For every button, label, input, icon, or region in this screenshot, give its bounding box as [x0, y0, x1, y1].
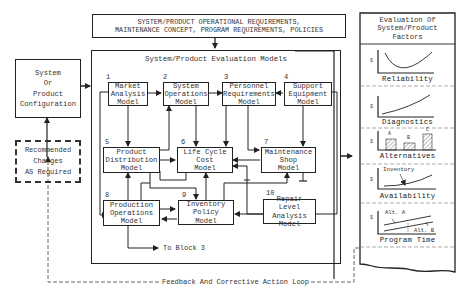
model-3-number: 3 [224, 73, 228, 81]
model-8-number: 8 [105, 191, 109, 199]
model-6-number: 6 [181, 138, 185, 146]
market-analysis-model-label: Market Analysis Model [111, 82, 146, 107]
system-configuration-box[interactable]: System Or Product Configuration [15, 59, 81, 118]
program-time-dollar-axis: $ [370, 215, 373, 221]
repair-level-analysis-model-label: Repair Level Analysis Model [264, 195, 315, 228]
requirements-line-1: SYSTEM/PRODUCT OPERATIONAL REQUIREMENTS, [137, 18, 300, 26]
model-2-number: 2 [163, 73, 167, 81]
model-5-number: 5 [105, 138, 109, 146]
product-distribution-model[interactable]: Product Distribution Model [103, 147, 160, 173]
alt-a-annotation: Alt. A [385, 209, 405, 216]
model-7-number: 7 [264, 138, 268, 146]
model-9-number: 9 [182, 191, 186, 199]
reliability-label: Reliability [360, 75, 455, 83]
availability-dollar-axis: $ [370, 177, 373, 183]
product-distribution-model-label: Product Distribution Model [106, 148, 158, 173]
model-1-number: 1 [106, 73, 110, 81]
recommended-changes-label: Recommended Changes AS Required [25, 145, 71, 178]
requirements-box: SYSTEM/PRODUCT OPERATIONAL REQUIREMENTS,… [92, 14, 346, 38]
alternatives-dollar-axis: $ [370, 139, 373, 145]
requirements-line-2: MAINTENANCE CONCEPT, PROGRAM REQUIREMENT… [115, 26, 323, 34]
evaluation-factors-title: Evaluation Of System/Product Factors [360, 16, 455, 41]
personnel-requirements-model-label: Personnel Requirements Model [223, 82, 275, 107]
bar-a-label: A [388, 131, 391, 137]
production-operations-model[interactable]: Production Operations Model [103, 200, 160, 226]
inventory-policy-model-label: Inventory Policy Model [187, 200, 226, 225]
system-operations-model-label: System Operations Model [164, 82, 207, 107]
to-block-3-label: To Block 3 [163, 244, 205, 252]
market-analysis-model[interactable]: Market Analysis Model [108, 82, 148, 106]
support-equipment-model-label: Support Equipment Model [289, 82, 328, 107]
support-equipment-model[interactable]: Support Equipment Model [284, 82, 332, 106]
alternatives-label: Alternatives [360, 152, 455, 160]
inventory-annotation: Inventory [383, 166, 414, 173]
system-configuration-label: System Or Product Configuration [20, 68, 76, 110]
bar-c-label: C [426, 127, 429, 133]
reliability-dollar-axis: $ [370, 58, 373, 64]
life-cycle-cost-model[interactable]: Life Cycle Cost Model [177, 147, 233, 173]
recommended-changes-box[interactable]: Recommended Changes AS Required [15, 140, 81, 183]
production-operations-model-label: Production Operations Model [110, 201, 153, 226]
life-cycle-cost-model-label: Life Cycle Cost Model [183, 148, 226, 173]
program-time-label: Program Time [360, 236, 455, 244]
repair-level-analysis-model[interactable]: Repair Level Analysis Model [263, 199, 316, 224]
model-4-number: 4 [284, 73, 288, 81]
maintenance-shop-model[interactable]: Maintenance Shop Model [261, 147, 316, 173]
personnel-requirements-model[interactable]: Personnel Requirements Model [222, 82, 276, 106]
system-operations-model[interactable]: System Operations Model [163, 82, 209, 106]
diagnostics-label: Diagnostics [360, 118, 455, 126]
maintenance-shop-model-label: Maintenance Shop Model [265, 148, 312, 173]
inventory-policy-model[interactable]: Inventory Policy Model [178, 200, 234, 225]
availability-label: Availability [360, 192, 455, 200]
bar-b-label: B [407, 135, 410, 141]
alt-b-annotation: Alt. B [414, 227, 434, 234]
evaluation-models-title: System/Product Evaluation Models [91, 55, 341, 63]
feedback-loop-label: Feedback And Corrective Action Loop [160, 278, 311, 286]
diagnostics-dollar-axis: $ [370, 104, 373, 110]
